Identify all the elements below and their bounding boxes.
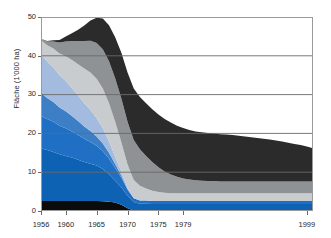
stacked-area-chart: Fläche (1'000 ha) 01020304050 1956196019… xyxy=(0,0,331,238)
x-tick-mark-1956 xyxy=(41,211,42,215)
x-tick-label-1999: 1999 xyxy=(287,220,327,229)
x-tick-label-1979: 1979 xyxy=(163,220,203,229)
y-tick-label-50: 50 xyxy=(14,13,36,21)
x-tick-mark-1999 xyxy=(307,211,308,215)
y-tick-mark-20 xyxy=(38,133,41,134)
x-tick-mark-1965 xyxy=(97,211,98,215)
plot-area xyxy=(41,17,313,211)
x-tick-mark-1960 xyxy=(66,211,67,215)
y-tick-label-20: 20 xyxy=(14,129,36,137)
y-tick-mark-30 xyxy=(38,95,41,96)
y-tick-label-10: 10 xyxy=(14,168,36,176)
y-tick-mark-40 xyxy=(38,56,41,57)
x-axis: 1956196019651970197519791999 xyxy=(0,211,331,238)
y-tick-label-40: 40 xyxy=(14,52,36,60)
x-tick-mark-1979 xyxy=(183,211,184,215)
y-axis: Fläche (1'000 ha) xyxy=(0,0,41,238)
x-tick-mark-1970 xyxy=(128,211,129,215)
y-axis-title: Fläche (1'000 ha) xyxy=(12,19,21,139)
y-tick-label-30: 30 xyxy=(14,90,36,98)
y-tick-mark-50 xyxy=(38,17,41,18)
gridlines-group xyxy=(41,17,313,211)
x-tick-mark-1975 xyxy=(158,211,159,215)
y-tick-mark-10 xyxy=(38,172,41,173)
